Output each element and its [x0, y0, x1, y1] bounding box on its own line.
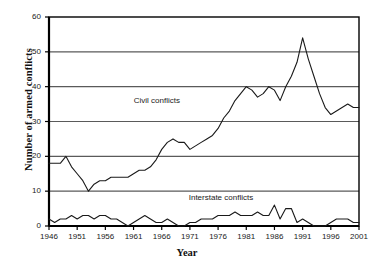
series-label-civil-conflicts: Civil conflicts — [134, 96, 180, 105]
y-axis-tick-label: 60 — [15, 12, 41, 21]
y-axis-tick-label: 10 — [15, 186, 41, 195]
series-line-interstate-conflicts — [49, 205, 359, 226]
series-label-interstate-conflicts: Interstate conflicts — [189, 193, 253, 202]
plot-area — [0, 0, 374, 267]
chart-figure: Number of armed conflicts Year 010203040… — [0, 0, 374, 267]
x-axis-title: Year — [0, 247, 374, 258]
y-axis-tick-label: 0 — [15, 221, 41, 230]
series-line-civil-conflicts — [49, 38, 359, 191]
x-axis-tick-label: 2001 — [339, 232, 374, 241]
y-axis-tick-label: 50 — [15, 47, 41, 56]
y-axis-tick-label: 30 — [15, 117, 41, 126]
y-axis-tick-label: 40 — [15, 82, 41, 91]
y-axis-tick-label: 20 — [15, 151, 41, 160]
